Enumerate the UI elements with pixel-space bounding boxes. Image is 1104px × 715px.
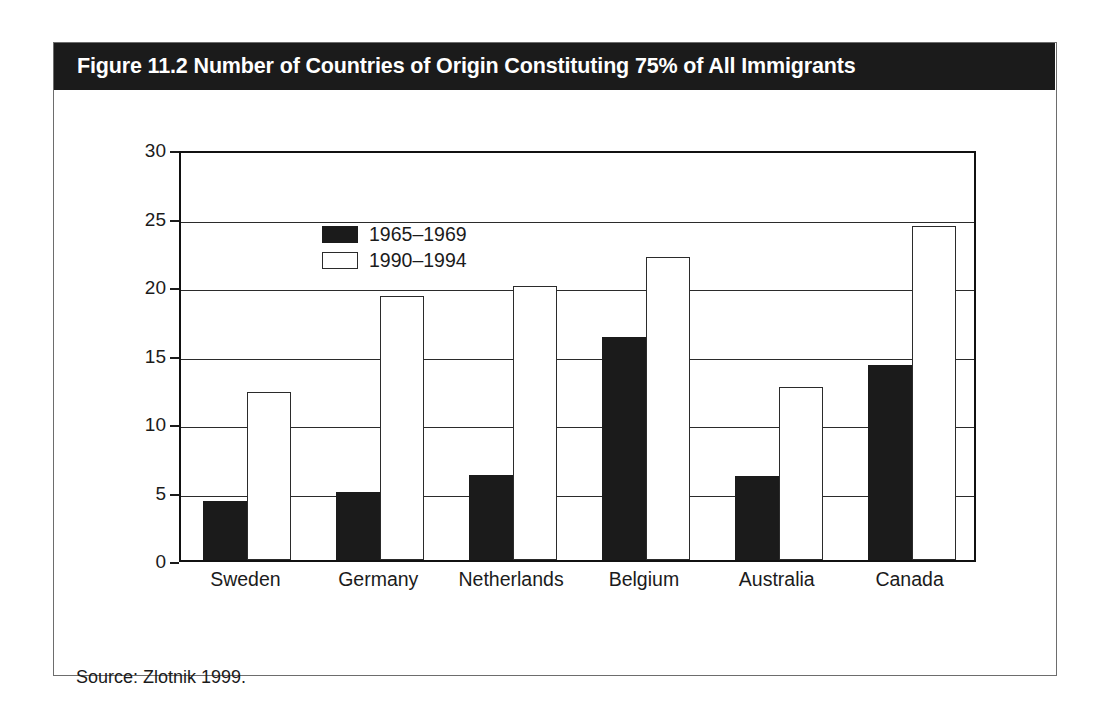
y-axis-tick-labels: 051015202530 <box>116 151 166 562</box>
legend-swatch-icon-1965-1969 <box>322 226 358 243</box>
x-tick-label-belgium: Belgium <box>609 568 679 591</box>
legend-label-series-1: 1990–1994 <box>369 249 467 272</box>
x-tick-label-germany: Germany <box>338 568 418 591</box>
bar-germany-1965-1969 <box>336 492 380 561</box>
bar-germany-1990-1994 <box>380 296 424 560</box>
x-tick-label-sweden: Sweden <box>210 568 280 591</box>
bar-sweden-1965-1969 <box>203 501 247 560</box>
y-tick-label-15: 15 <box>120 346 166 368</box>
chart-legend: 1965–1969 1990–1994 <box>322 223 467 272</box>
y-tick-label-0: 0 <box>120 551 166 573</box>
y-tick-mark-5 <box>170 494 179 496</box>
plot-wrapper: 051015202530 1965–1969 1990–1994 SwedenG… <box>54 90 1055 675</box>
plot-area: 1965–1969 1990–1994 <box>179 151 976 562</box>
y-tick-label-30: 30 <box>120 140 166 162</box>
y-tick-label-20: 20 <box>120 277 166 299</box>
x-tick-label-australia: Australia <box>739 568 815 591</box>
source-note: Source: Zlotnik 1999. <box>76 667 246 688</box>
bars-layer <box>181 153 974 560</box>
y-tick-mark-25 <box>170 220 179 222</box>
legend-item-series-0: 1965–1969 <box>322 223 467 246</box>
y-tick-mark-0 <box>170 562 179 564</box>
y-tick-mark-10 <box>170 425 179 427</box>
x-axis-tick-labels: SwedenGermanyNetherlandsBelgiumAustralia… <box>179 568 976 598</box>
y-tick-label-25: 25 <box>120 209 166 231</box>
figure-title-band: Figure 11.2 Number of Countries of Origi… <box>54 43 1055 90</box>
figure-container: Figure 11.2 Number of Countries of Origi… <box>53 42 1057 676</box>
bar-australia-1990-1994 <box>779 387 823 560</box>
bar-canada-1990-1994 <box>912 226 956 560</box>
legend-label-series-0: 1965–1969 <box>369 223 467 246</box>
x-tick-label-netherlands: Netherlands <box>459 568 564 591</box>
y-tick-mark-30 <box>170 151 179 153</box>
y-tick-label-5: 5 <box>120 483 166 505</box>
legend-item-series-1: 1990–1994 <box>322 249 467 272</box>
bar-netherlands-1990-1994 <box>513 286 557 560</box>
x-tick-label-canada: Canada <box>875 568 943 591</box>
bar-netherlands-1965-1969 <box>469 475 513 560</box>
bar-belgium-1965-1969 <box>602 337 646 560</box>
legend-swatch-icon-1990-1994 <box>322 252 358 269</box>
y-tick-mark-20 <box>170 288 179 290</box>
y-tick-mark-15 <box>170 357 179 359</box>
bar-australia-1965-1969 <box>735 476 779 560</box>
bar-sweden-1990-1994 <box>247 392 291 561</box>
bar-belgium-1990-1994 <box>646 257 690 560</box>
bar-canada-1965-1969 <box>868 365 912 560</box>
y-tick-label-10: 10 <box>120 414 166 436</box>
figure-title: Figure 11.2 Number of Countries of Origi… <box>77 54 856 79</box>
